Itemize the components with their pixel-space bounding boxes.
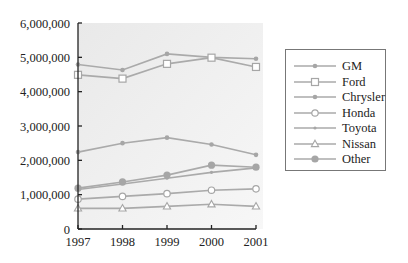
y-tick-label: 6,000,000 bbox=[20, 17, 70, 31]
legend-swatch-icon bbox=[294, 58, 336, 74]
data-point bbox=[208, 187, 214, 193]
legend-swatch-icon bbox=[294, 151, 336, 167]
data-point bbox=[210, 171, 213, 174]
x-tick-label: 1998 bbox=[110, 235, 135, 249]
data-point bbox=[120, 68, 125, 73]
legend-item-gm: GM bbox=[286, 58, 385, 74]
legend-swatch-icon bbox=[294, 105, 336, 121]
data-point bbox=[254, 153, 259, 158]
legend-swatch-icon bbox=[294, 120, 336, 136]
data-point bbox=[165, 52, 170, 57]
data-point bbox=[164, 60, 171, 67]
data-point bbox=[119, 178, 126, 185]
data-point bbox=[209, 142, 214, 147]
legend-label: Chrysler bbox=[342, 89, 385, 105]
legend-item-chrysler: Chrysler bbox=[286, 89, 385, 105]
legend-label: Nissan bbox=[342, 136, 376, 152]
legend-swatch-icon bbox=[294, 74, 336, 90]
legend-label: Toyota bbox=[342, 120, 377, 136]
legend-marker-icon bbox=[313, 95, 318, 100]
legend-item-honda: Honda bbox=[286, 105, 385, 121]
legend-swatch-icon bbox=[294, 89, 336, 105]
data-point bbox=[163, 171, 170, 178]
legend-marker-icon bbox=[313, 126, 316, 129]
legend-label: Ford bbox=[342, 74, 366, 90]
legend-swatch-icon bbox=[294, 136, 336, 152]
x-tick-label: 2000 bbox=[199, 235, 224, 249]
y-tick-label: 5,000,000 bbox=[20, 51, 70, 65]
y-tick-label: 2,000,000 bbox=[20, 154, 70, 168]
data-point bbox=[208, 54, 215, 61]
data-point bbox=[164, 190, 170, 196]
legend-label: Honda bbox=[342, 105, 375, 121]
legend-label: GM bbox=[342, 58, 362, 74]
data-point bbox=[252, 164, 259, 171]
y-tick-label: 4,000,000 bbox=[20, 85, 70, 99]
data-point bbox=[253, 186, 259, 192]
legend: GMFordChryslerHondaToyotaNissanOther bbox=[285, 49, 386, 171]
legend-marker-icon bbox=[311, 155, 318, 162]
y-tick-label: 1,000,000 bbox=[20, 188, 70, 202]
x-tick-label: 1997 bbox=[66, 235, 91, 249]
legend-item-ford: Ford bbox=[286, 74, 385, 90]
legend-marker-icon bbox=[312, 78, 319, 85]
data-point bbox=[165, 135, 170, 140]
data-point bbox=[120, 141, 125, 146]
legend-item-toyota: Toyota bbox=[286, 120, 385, 136]
data-point bbox=[254, 56, 259, 61]
legend-marker-icon bbox=[312, 109, 318, 115]
data-point bbox=[119, 75, 126, 82]
x-tick-label: 1999 bbox=[155, 235, 180, 249]
legend-label: Other bbox=[342, 151, 370, 167]
legend-marker-icon bbox=[313, 64, 318, 69]
data-point bbox=[208, 162, 215, 169]
y-tick-label: 3,000,000 bbox=[20, 120, 70, 134]
data-point bbox=[119, 193, 125, 199]
legend-item-nissan: Nissan bbox=[286, 136, 385, 152]
x-tick-label: 2001 bbox=[244, 235, 269, 249]
data-point bbox=[253, 63, 260, 70]
legend-item-other: Other bbox=[286, 151, 385, 167]
